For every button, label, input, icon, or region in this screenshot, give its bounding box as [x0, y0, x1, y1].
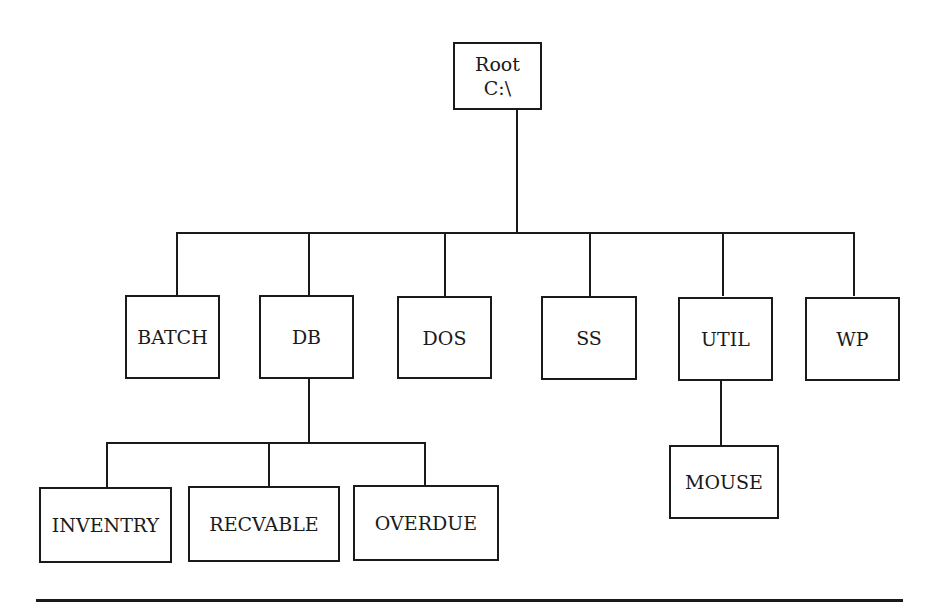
connector-drop-overdue — [424, 442, 426, 487]
node-batch-label: BATCH — [137, 325, 207, 349]
bottom-rule — [36, 599, 903, 602]
node-db: DB — [259, 295, 354, 379]
node-inventry: INVENTRY — [39, 487, 172, 563]
node-ss: SS — [541, 296, 637, 380]
node-util: UTIL — [678, 297, 773, 381]
node-wp: WP — [805, 297, 900, 381]
connector-level1-bus — [176, 232, 855, 234]
node-db-label: DB — [292, 325, 321, 349]
root-path: C:\ — [484, 76, 511, 100]
connector-drop-wp — [853, 232, 855, 296]
node-batch: BATCH — [125, 295, 220, 379]
node-mouse: MOUSE — [669, 445, 779, 519]
connector-root-trunk — [516, 109, 518, 233]
node-util-label: UTIL — [701, 327, 750, 351]
connector-util-mouse — [720, 380, 722, 446]
connector-db-bus — [106, 442, 426, 444]
connector-drop-recvable — [268, 442, 270, 487]
node-root: Root C:\ — [453, 42, 542, 110]
node-inventry-label: INVENTRY — [52, 513, 159, 537]
node-overdue: OVERDUE — [353, 485, 499, 561]
node-wp-label: WP — [836, 327, 868, 351]
connector-drop-inventry — [106, 442, 108, 487]
node-mouse-label: MOUSE — [685, 470, 763, 494]
node-recvable: RECVABLE — [188, 486, 340, 562]
node-ss-label: SS — [576, 326, 602, 350]
connector-drop-util — [722, 232, 724, 296]
connector-db-trunk — [308, 379, 310, 443]
connector-drop-ss — [589, 232, 591, 296]
connector-drop-db — [308, 232, 310, 296]
node-recvable-label: RECVABLE — [209, 512, 318, 536]
node-dos: DOS — [397, 296, 492, 379]
node-overdue-label: OVERDUE — [375, 511, 477, 535]
root-label: Root — [475, 52, 520, 76]
node-dos-label: DOS — [423, 326, 467, 350]
connector-drop-dos — [444, 232, 446, 296]
connector-drop-batch — [176, 232, 178, 296]
